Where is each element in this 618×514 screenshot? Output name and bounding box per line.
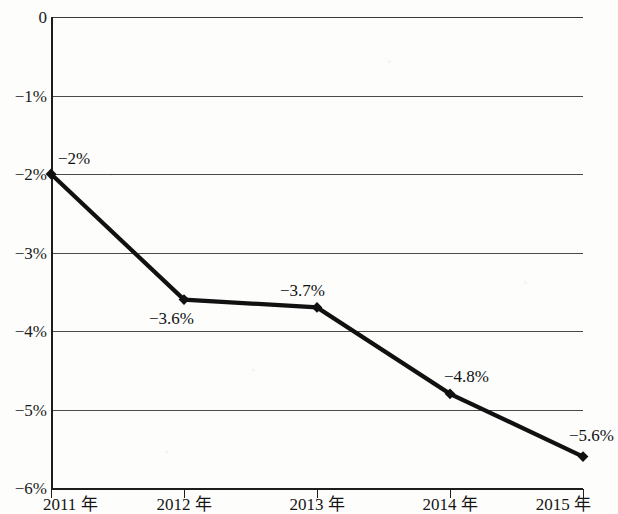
y-axis-tick-label: −1% xyxy=(0,87,47,104)
x-axis-label-1: 2012 年 xyxy=(114,490,254,514)
data-point-marker-2015年 xyxy=(578,451,589,462)
data-point-value-label-2014年: −4.8% xyxy=(444,368,489,385)
y-axis-tick-label: −2% xyxy=(0,166,47,183)
data-point-value-label-2015年: −5.6% xyxy=(569,427,614,444)
data-point-value-label-2011年: −2% xyxy=(58,150,90,167)
y-axis-tick-label: −3% xyxy=(0,244,47,261)
line-chart: 0−1%−2%−3%−4%−5%−6% 2011 年2012 年2013 年20… xyxy=(0,0,618,514)
y-axis-tick-label: 0 xyxy=(0,9,47,26)
gridline-minus5% xyxy=(51,410,583,411)
y-axis-line xyxy=(51,17,53,489)
y-axis-tick-label: −6% xyxy=(0,480,47,497)
data-point-value-label-2013年: −3.7% xyxy=(280,282,325,299)
gridline-minus1% xyxy=(51,96,583,97)
x-axis-label-4: 2015 年 xyxy=(441,490,591,514)
gridline-minus4% xyxy=(51,331,583,332)
y-axis-tick-label: −5% xyxy=(0,401,47,418)
x-axis-label-2: 2013 年 xyxy=(247,490,387,514)
data-series xyxy=(0,0,618,514)
data-point-marker-2014年 xyxy=(445,388,456,399)
series-markers xyxy=(46,169,589,462)
data-point-marker-2013年 xyxy=(312,302,323,313)
data-point-marker-2012年 xyxy=(179,294,190,305)
scan-noise-overlay xyxy=(0,0,618,514)
gridline-minus3% xyxy=(51,253,583,254)
data-point-value-label-2012年: −3.6% xyxy=(149,310,194,327)
gridline-0 xyxy=(51,17,583,18)
gridline-minus2% xyxy=(51,174,583,175)
y-axis-tick-label: −4% xyxy=(0,323,47,340)
series-line xyxy=(51,174,583,457)
